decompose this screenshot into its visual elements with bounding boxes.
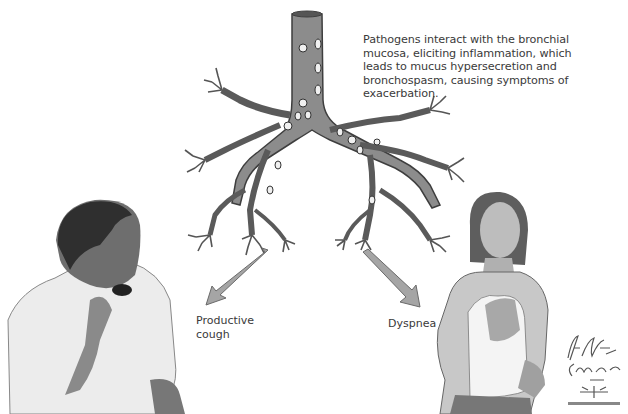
figure-caption: Pathogens interact with the bronchial mu… bbox=[363, 33, 613, 101]
label-line: cough bbox=[196, 328, 254, 342]
caption-line: exacerbation. bbox=[363, 87, 613, 101]
arrow-to-cough bbox=[206, 248, 268, 305]
caption-line: mucosa, eliciting inflammation, which bbox=[363, 47, 613, 61]
caption-line: Pathogens interact with the bronchial bbox=[363, 33, 613, 47]
arrow-to-dyspnea bbox=[363, 249, 420, 307]
label-line: Dyspnea bbox=[388, 317, 436, 331]
man-coughing-figure bbox=[8, 200, 185, 414]
artist-signature bbox=[560, 328, 628, 414]
label-line: Productive bbox=[196, 314, 254, 328]
caption-line: leads to mucus hypersecretion and bbox=[363, 60, 613, 74]
woman-dyspnea-figure bbox=[437, 192, 548, 414]
label-dyspnea: Dyspnea bbox=[388, 317, 436, 331]
caption-line: bronchospasm, causing symptoms of bbox=[363, 74, 613, 88]
label-productive-cough: Productive cough bbox=[196, 314, 254, 341]
